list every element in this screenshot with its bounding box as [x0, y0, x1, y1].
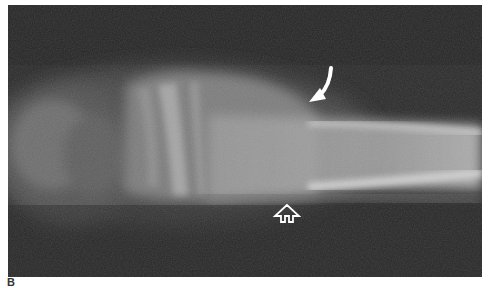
radiograph-image: [8, 5, 482, 277]
panel-label: B: [7, 276, 15, 288]
xray-graphic: [8, 5, 482, 277]
figure: B: [0, 0, 488, 288]
